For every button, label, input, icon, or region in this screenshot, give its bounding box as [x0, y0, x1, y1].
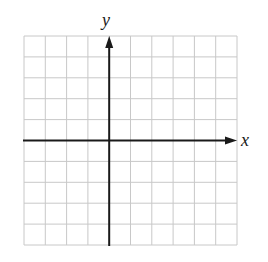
y-axis-label: y: [102, 11, 110, 29]
coordinate-plane: [0, 0, 268, 262]
x-axis-arrow-icon: [225, 137, 237, 145]
y-axis-arrow-icon: [105, 36, 113, 48]
x-axis-label: x: [241, 131, 249, 149]
